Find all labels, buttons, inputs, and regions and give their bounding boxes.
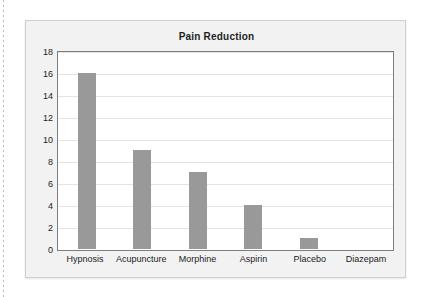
y-tick-label: 0	[26, 246, 53, 255]
bar-placebo[interactable]	[300, 238, 318, 249]
gridline-0	[58, 250, 393, 251]
y-tick-label: 4	[26, 202, 53, 211]
y-tick-label: 18	[26, 48, 53, 57]
bar-series	[59, 53, 392, 249]
x-tick-label-diazepam: Diazepam	[338, 253, 394, 265]
y-tick-label: 14	[26, 92, 53, 101]
bar-slot	[59, 53, 115, 249]
bar-slot	[281, 53, 337, 249]
x-tick-label-placebo: Placebo	[282, 253, 338, 265]
bar-slot	[115, 53, 171, 249]
y-tick-label: 6	[26, 180, 53, 189]
bar-morphine[interactable]	[189, 172, 207, 249]
bar-slot	[170, 53, 226, 249]
y-tick-label: 12	[26, 114, 53, 123]
y-axis: 024681012141618	[26, 51, 53, 251]
bar-aspirin[interactable]	[244, 205, 262, 249]
y-tick-label: 10	[26, 136, 53, 145]
bar-hypnosis[interactable]	[78, 73, 96, 249]
chart-title: Pain Reduction	[26, 31, 407, 42]
plot-area	[57, 51, 394, 251]
x-tick-label-aspirin: Aspirin	[226, 253, 282, 265]
page-margin-rule	[3, 0, 4, 297]
bar-slot	[337, 53, 393, 249]
chart-panel: Pain Reduction 024681012141618 HypnosisA…	[25, 20, 406, 278]
x-axis: HypnosisAcupunctureMorphineAspirinPlaceb…	[57, 253, 394, 265]
bar-acupuncture[interactable]	[133, 150, 151, 249]
x-tick-label-morphine: Morphine	[169, 253, 225, 265]
x-tick-label-hypnosis: Hypnosis	[57, 253, 113, 265]
y-tick-label: 8	[26, 158, 53, 167]
x-tick-label-acupuncture: Acupuncture	[113, 253, 169, 265]
y-tick-label: 2	[26, 224, 53, 233]
y-tick-label: 16	[26, 70, 53, 79]
bar-slot	[226, 53, 282, 249]
